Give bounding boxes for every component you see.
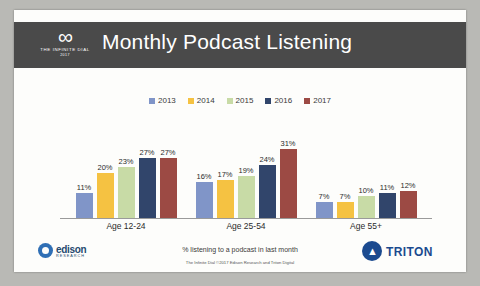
legend-item-2013: 2013 <box>149 96 176 105</box>
chart-legend: 20132014201520162017 <box>30 96 450 105</box>
bar-2013 <box>316 202 333 218</box>
bar-value-label: 12% <box>400 181 415 190</box>
bar-column: 10% <box>358 126 375 218</box>
bar-column: 11% <box>379 126 396 218</box>
x-axis-category-label: Age 25-54 <box>192 221 300 231</box>
bar-column: 19% <box>238 126 255 218</box>
triton-mark-icon: ▲ <box>362 241 382 261</box>
bar-value-label: 27% <box>139 148 154 157</box>
bar-column: 24% <box>259 126 276 218</box>
legend-swatch-icon <box>188 98 194 104</box>
bar-value-label: 27% <box>160 148 175 157</box>
bar-group: 16%17%19%24%31% <box>192 126 300 218</box>
bar-2017 <box>280 149 297 218</box>
bar-value-label: 20% <box>97 163 112 172</box>
bar-value-label: 31% <box>280 139 295 148</box>
bar-2016 <box>139 158 156 218</box>
infinity-icon: ∞ <box>36 27 94 47</box>
bar-value-label: 11% <box>380 183 394 192</box>
triton-logo-name: TRITON <box>386 245 433 259</box>
bar-column: 23% <box>118 126 135 218</box>
bar-column: 27% <box>139 126 156 218</box>
triton-triangle-icon: ▲ <box>367 244 378 258</box>
legend-swatch-icon <box>227 98 233 104</box>
slide-header: ∞ THE INFINITE DIAL 2017 Monthly Podcast… <box>14 22 466 68</box>
bar-2014 <box>337 202 354 218</box>
bar-2017 <box>160 158 177 218</box>
bar-2016 <box>259 165 276 218</box>
bar-2015 <box>238 176 255 218</box>
bar-2013 <box>196 182 213 218</box>
bar-column: 27% <box>160 126 177 218</box>
bar-2014 <box>97 173 114 218</box>
legend-item-2015: 2015 <box>227 96 254 105</box>
bar-group-bars: 11%20%23%27%27% <box>72 126 180 218</box>
bar-column: 16% <box>196 126 213 218</box>
x-axis-line <box>60 218 432 219</box>
edison-logo-sub: RESEARCH <box>56 254 85 258</box>
bar-2015 <box>358 196 375 218</box>
bar-2017 <box>400 191 417 218</box>
legend-swatch-icon <box>265 98 271 104</box>
bar-column: 11% <box>76 126 93 218</box>
bar-2013 <box>76 193 93 218</box>
bar-value-label: 10% <box>358 186 373 195</box>
legend-label: 2017 <box>313 96 331 105</box>
bar-2014 <box>217 180 234 218</box>
bar-value-label: 23% <box>118 157 133 166</box>
page-title: Monthly Podcast Listening <box>102 30 352 54</box>
legend-item-2016: 2016 <box>265 96 292 105</box>
triton-digital-logo: ▲ TRITON <box>362 241 448 263</box>
bar-2016 <box>379 193 396 218</box>
bar-column: 12% <box>400 126 417 218</box>
edison-research-logo: edison RESEARCH <box>38 242 124 262</box>
legend-swatch-icon <box>149 98 155 104</box>
legend-label: 2014 <box>197 96 215 105</box>
bar-value-label: 17% <box>217 170 232 179</box>
slide: ∞ THE INFINITE DIAL 2017 Monthly Podcast… <box>14 10 466 272</box>
infinite-dial-logo: ∞ THE INFINITE DIAL 2017 <box>36 27 94 65</box>
bar-column: 31% <box>280 126 297 218</box>
bar-value-label: 7% <box>340 192 351 201</box>
x-axis-category-label: Age 55+ <box>312 221 420 231</box>
bar-column: 17% <box>217 126 234 218</box>
bar-group-bars: 16%17%19%24%31% <box>192 126 300 218</box>
bar-group: 11%20%23%27%27% <box>72 126 180 218</box>
bar-column: 20% <box>97 126 114 218</box>
bar-value-label: 7% <box>319 192 330 201</box>
legend-swatch-icon <box>304 98 310 104</box>
brand-logo-line2: 2017 <box>36 53 94 58</box>
bar-value-label: 19% <box>238 166 253 175</box>
chart-plot: 11%20%23%27%27%16%17%19%24%31%7%7%10%11%… <box>60 126 432 218</box>
legend-item-2017: 2017 <box>304 96 331 105</box>
bar-2015 <box>118 167 135 218</box>
bar-group: 7%7%10%11%12% <box>312 126 420 218</box>
bar-value-label: 24% <box>259 155 274 164</box>
legend-item-2014: 2014 <box>188 96 215 105</box>
legend-label: 2015 <box>236 96 254 105</box>
bar-group-bars: 7%7%10%11%12% <box>312 126 420 218</box>
chart: 20132014201520162017 11%20%23%27%27%16%1… <box>30 80 450 240</box>
edison-mark-icon <box>38 243 53 258</box>
bar-column: 7% <box>337 126 354 218</box>
legend-label: 2016 <box>274 96 292 105</box>
bar-value-label: 11% <box>77 183 91 192</box>
x-axis-category-label: Age 12-24 <box>72 221 180 231</box>
legend-label: 2013 <box>158 96 176 105</box>
bar-value-label: 16% <box>196 172 211 181</box>
bar-column: 7% <box>316 126 333 218</box>
